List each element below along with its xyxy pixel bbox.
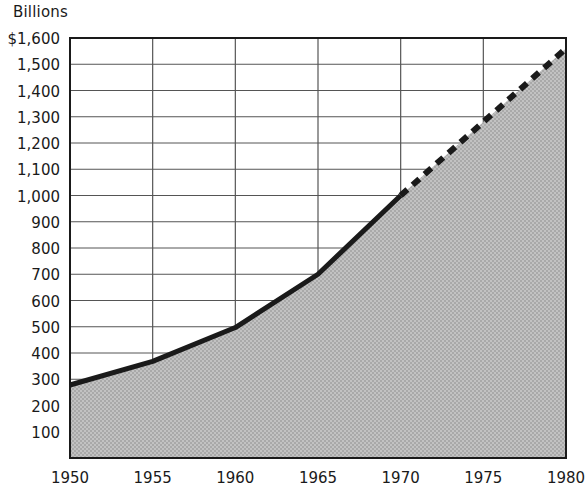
y-axis-tick-label: 700 <box>31 266 60 284</box>
x-axis-tick-label: 1965 <box>299 469 337 487</box>
x-axis-tick-label: 1975 <box>464 469 502 487</box>
y-axis-tick-label: 1,400 <box>17 83 60 101</box>
x-axis-tick-label: 1960 <box>216 469 254 487</box>
y-axis-tick-label: $1,600 <box>8 30 61 48</box>
y-axis-tick-label: 500 <box>31 319 60 337</box>
x-axis-tick-label: 1950 <box>51 469 89 487</box>
chart-plot-area: $1,6001,5001,4001,3001,2001,1001,0009008… <box>0 0 586 498</box>
y-axis-tick-label: 1,000 <box>17 188 60 206</box>
x-axis-tick-label: 1970 <box>382 469 420 487</box>
y-axis-tick-label: 1,200 <box>17 135 60 153</box>
x-axis-tick-labels: 1950195519601965197019751980 <box>51 469 585 487</box>
x-axis-tick-label: 1980 <box>547 469 585 487</box>
y-axis-tick-label: 1,500 <box>17 56 60 74</box>
y-axis-tick-label: 1,300 <box>17 109 60 127</box>
y-axis-tick-label: 200 <box>31 398 60 416</box>
chart-container: Billions $1,6001,5001,4001,3001,2001,100… <box>0 0 586 498</box>
y-axis-tick-label: 600 <box>31 293 60 311</box>
y-axis-tick-label: 100 <box>31 424 60 442</box>
x-axis-tick-label: 1955 <box>134 469 172 487</box>
y-axis-tick-label: 400 <box>31 345 60 363</box>
y-axis-tick-labels: $1,6001,5001,4001,3001,2001,1001,0009008… <box>8 30 61 442</box>
y-axis-tick-label: 300 <box>31 371 60 389</box>
y-axis-tick-label: 1,100 <box>17 161 60 179</box>
y-axis-tick-label: 900 <box>31 214 60 232</box>
y-axis-tick-label: 800 <box>31 240 60 258</box>
